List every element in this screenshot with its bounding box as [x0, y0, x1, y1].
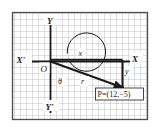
angle-label-theta: θ — [58, 77, 62, 86]
axis-label-y-negative: Y' — [46, 102, 54, 112]
axis-label-x-positive: X — [131, 54, 139, 64]
origin-label: O — [41, 64, 48, 74]
segment-label-x: x — [78, 49, 83, 58]
coordinate-plane-svg: Y Y' X' X O x y r θ P=(12,−5) — [0, 0, 156, 127]
axis-label-x-negative: X' — [16, 55, 26, 65]
segment-label-y: y — [124, 67, 129, 76]
point-label-p: P=(12,−5) — [98, 90, 131, 99]
coordinate-figure: Y Y' X' X O x y r θ P=(12,−5) — [0, 0, 156, 127]
